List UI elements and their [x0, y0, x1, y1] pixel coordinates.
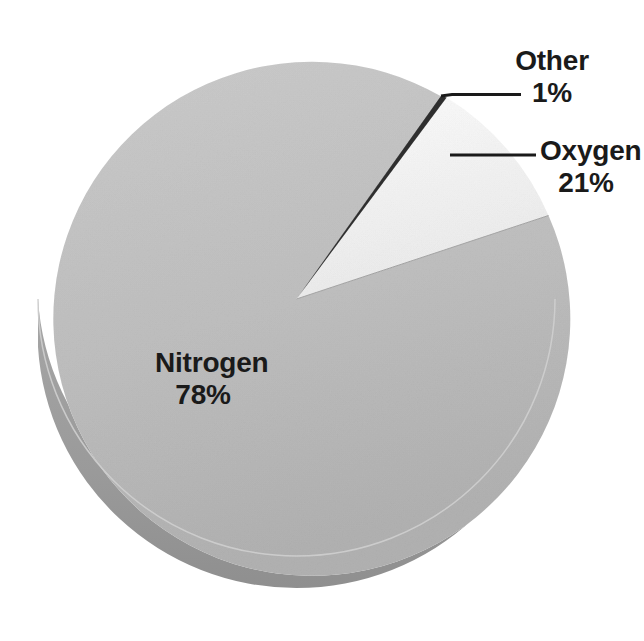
- pie-label-other-value: 1%: [499, 78, 605, 108]
- pie-label-nitrogen: Nitrogen 78%: [155, 348, 251, 410]
- pie-label-oxygen-value: 21%: [540, 168, 632, 198]
- pie-label-oxygen-name: Oxygen: [540, 136, 632, 166]
- pie-top-surface: [53, 62, 570, 576]
- pie-label-nitrogen-value: 78%: [155, 380, 251, 410]
- pie-label-other-name: Other: [499, 46, 605, 76]
- pie-chart-figure: Other 1% Oxygen 21% Nitrogen 78%: [0, 0, 644, 641]
- pie-label-oxygen: Oxygen 21%: [540, 136, 632, 198]
- pie-label-other: Other 1%: [499, 46, 605, 108]
- pie-label-nitrogen-name: Nitrogen: [155, 348, 251, 378]
